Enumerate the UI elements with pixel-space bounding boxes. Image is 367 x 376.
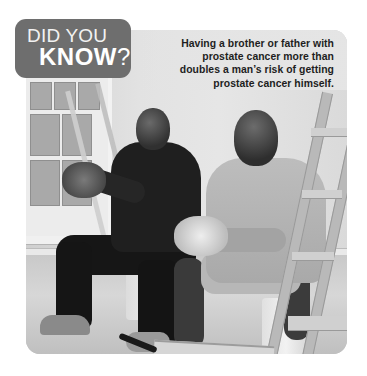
window-pane [30,114,60,156]
fact-text: Having a brother or father with prostate… [176,37,334,90]
man-left-head [136,108,170,150]
man-right-hands [174,216,228,256]
man-right-head [234,110,278,166]
did-you-know-badge: DID YOU KNOW? [15,19,131,78]
badge-know-text: KNOW [39,43,117,70]
man-right-leg [174,258,204,348]
did-you-know-card: DID YOU KNOW? Having a brother or father… [0,0,367,376]
ladder-rung [302,190,342,199]
window-pane [30,160,60,206]
man-left-hands [62,162,106,198]
ladder-rung [311,128,347,137]
ladder-rung [288,316,347,331]
man-left-shoe [40,315,90,335]
ladder-rung [292,252,334,261]
badge-question-mark: ? [117,43,131,70]
window-pane [30,82,52,110]
badge-line-2: KNOW? [39,45,131,69]
